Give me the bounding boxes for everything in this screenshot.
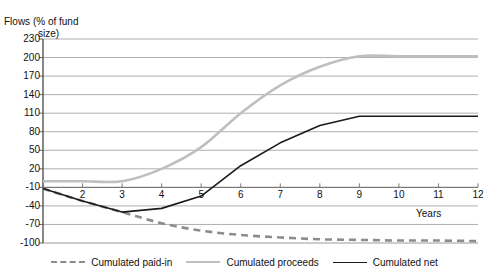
x-axis-tick-label: 3	[112, 190, 132, 200]
x-axis-tick-label: 9	[349, 190, 369, 200]
legend-swatch	[51, 261, 85, 263]
legend-item: Cumulated net	[333, 257, 438, 268]
x-axis-tick-label: 11	[428, 190, 448, 200]
legend-item: Cumulated paid-in	[51, 257, 172, 268]
chart-container: Flows (% of fund size) 23020017014011080…	[0, 0, 489, 275]
x-axis-tick-label: 6	[231, 190, 251, 200]
chart-legend: Cumulated paid-inCumulated proceedsCumul…	[0, 252, 489, 272]
x-axis-tick-label: 5	[191, 190, 211, 200]
legend-swatch	[333, 262, 367, 263]
x-axis-tick-label: 7	[270, 190, 290, 200]
legend-swatch	[186, 261, 220, 263]
x-axis-tick-labels: 23456789101112	[0, 0, 489, 275]
legend-label: Cumulated proceeds	[226, 257, 318, 268]
legend-label: Cumulated paid-in	[91, 257, 172, 268]
x-axis-title: Years	[416, 208, 441, 220]
legend-label: Cumulated net	[373, 257, 438, 268]
x-axis-tick-label: 12	[468, 190, 488, 200]
legend-item: Cumulated proceeds	[186, 257, 318, 268]
x-axis-tick-label: 8	[310, 190, 330, 200]
x-axis-tick-label: 10	[389, 190, 409, 200]
x-axis-tick-label: 2	[73, 190, 93, 200]
x-axis-tick-label: 4	[152, 190, 172, 200]
